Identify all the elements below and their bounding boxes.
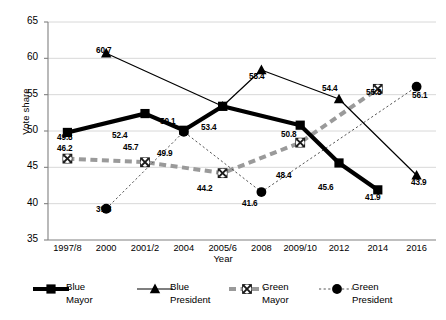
- y-tick-label: 50: [8, 124, 38, 135]
- y-tick-label: 45: [8, 160, 38, 171]
- legend-swatch-circle-filled-icon: [318, 282, 356, 296]
- y-tick-label: 40: [8, 197, 38, 208]
- data-point-label: 49.8: [57, 133, 73, 142]
- legend-swatch-circle-x-icon: [228, 282, 266, 296]
- plot-area: [0, 0, 446, 320]
- y-tick-label: 65: [8, 15, 38, 26]
- legend-swatch-triangle-icon: [136, 282, 174, 296]
- data-point-label: 41.9: [365, 193, 381, 202]
- data-point-label: 54.4: [322, 84, 338, 93]
- data-point-label: 60.7: [96, 46, 112, 55]
- data-point-label: 46.2: [57, 144, 73, 153]
- legend-label-line2: President: [352, 294, 444, 306]
- data-point-label: 53.4: [201, 123, 217, 132]
- data-point-label: 43.9: [411, 178, 427, 187]
- y-tick-label: 35: [8, 233, 38, 244]
- data-point-label: 44.2: [197, 184, 213, 193]
- x-axis-title: Year: [0, 253, 446, 264]
- data-point-label: 52.4: [112, 131, 128, 140]
- y-tick-label: 55: [8, 88, 38, 99]
- data-point-label: 50.8: [281, 130, 297, 139]
- vote-share-line-chart: Vote share Year 65605550454035 1997/8200…: [0, 0, 446, 320]
- data-point-label: 39.3: [96, 205, 112, 214]
- data-point-label: 58.4: [249, 72, 265, 81]
- data-point-label: 41.6: [242, 199, 258, 208]
- data-point-label: 55.8: [366, 88, 382, 97]
- legend-swatch-square-icon: [32, 282, 70, 296]
- data-point-label: 50.1: [160, 117, 176, 126]
- data-point-label: 45.7: [123, 143, 139, 152]
- legend-label-line1: Green: [352, 281, 444, 293]
- chart-legend: BlueMayorBluePresidentGreenMayorGreenPre…: [0, 281, 446, 317]
- y-tick-label: 60: [8, 51, 38, 62]
- data-point-label: 49.9: [157, 149, 173, 158]
- y-axis-title: Vote share: [20, 67, 31, 157]
- data-point-label: 56.1: [412, 91, 428, 100]
- data-point-label: 45.6: [318, 183, 334, 192]
- x-tick-label: 2016: [389, 243, 445, 253]
- data-point-label: 48.4: [276, 171, 292, 180]
